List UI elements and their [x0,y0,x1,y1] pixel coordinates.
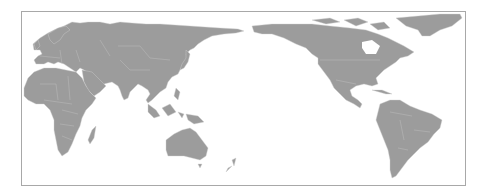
north-america [252,24,414,108]
world-map [0,0,485,195]
australia [166,128,208,160]
tasmania [198,164,202,168]
cuba [372,90,392,94]
philippines [174,88,180,100]
indonesia [148,104,204,124]
greenland [396,14,462,36]
south-america [376,100,442,178]
madagascar [88,126,96,144]
new-zealand [226,158,236,172]
